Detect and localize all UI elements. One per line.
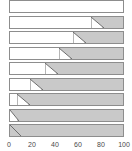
bar-fill <box>28 94 124 105</box>
bar-fill <box>56 63 123 74</box>
bar-row[interactable] <box>9 31 124 44</box>
tick-label: 0 <box>7 141 11 149</box>
bar-row[interactable] <box>9 93 124 106</box>
bar-row[interactable] <box>9 0 124 13</box>
bar-chart: 0 20 40 60 80 100 <box>0 0 132 151</box>
bar-row[interactable] <box>9 124 124 137</box>
bar-row[interactable] <box>9 16 124 29</box>
bar-diagonal <box>30 79 43 90</box>
bar-diagonal <box>10 125 23 136</box>
bar-row[interactable] <box>9 78 124 91</box>
bar-diagonal <box>45 63 58 74</box>
bar-diagonal <box>10 110 23 121</box>
tick-label: 80 <box>97 141 105 149</box>
tick-label: 40 <box>51 141 59 149</box>
tick-label: 20 <box>28 141 36 149</box>
tick-label: 60 <box>74 141 82 149</box>
bar-fill <box>10 125 123 136</box>
bar-row[interactable] <box>9 109 124 122</box>
bar-diagonal <box>59 48 72 59</box>
bar-row[interactable] <box>9 62 124 75</box>
bar-fill <box>70 48 123 59</box>
tick-label: 100 <box>118 141 130 149</box>
bar-fill <box>84 32 123 43</box>
bar-fill <box>102 17 123 28</box>
bar-diagonal <box>17 94 30 105</box>
x-axis-tick-labels: 0 20 40 60 80 100 <box>0 141 132 151</box>
plot-area <box>0 0 132 140</box>
bar-row[interactable] <box>9 47 124 60</box>
bar-diagonal <box>73 32 86 43</box>
bar-fill <box>41 79 123 90</box>
bar-fill <box>17 110 123 121</box>
bar-diagonal <box>91 17 104 28</box>
